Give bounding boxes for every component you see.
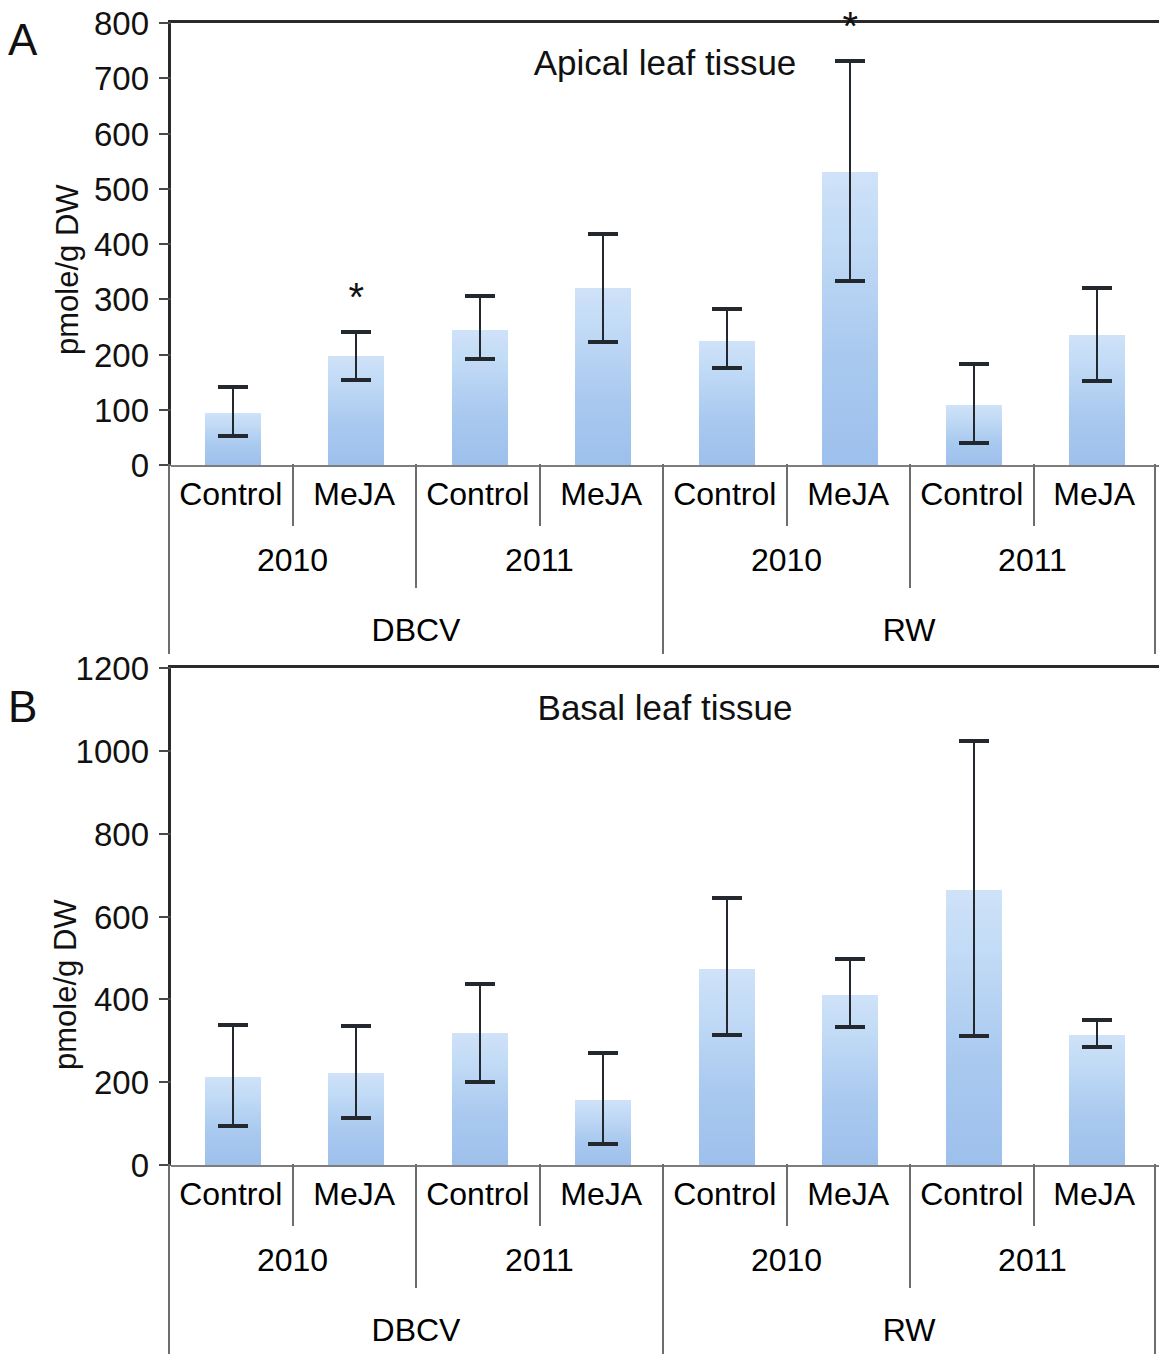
y-axis-tick-mark [159,77,171,79]
axis-treatment-label: MeJA [292,1164,416,1226]
error-bar-cap-top [835,59,865,63]
error-bar-cap-top [588,232,618,236]
error-bar-cap-bottom [588,1142,618,1146]
error-bar-cap-top [712,896,742,900]
axis-year-label: 2011 [909,526,1156,588]
y-axis-tick-label: 1200 [76,652,171,685]
error-bar-cap-bottom [341,378,371,382]
error-bar [232,386,234,437]
bar[interactable] [1069,1035,1125,1165]
error-bar-cap-top [1082,286,1112,290]
error-bar-cap-bottom [218,1124,248,1128]
bar-cell [542,23,666,465]
axis-treatment-label: MeJA [1033,464,1157,526]
bar-cell [418,23,542,465]
y-axis-tick-mark [159,667,171,669]
error-bar-cap-bottom [959,1034,989,1038]
axis-cultivar-label: DBCV [168,1288,662,1354]
error-bar [1096,1019,1098,1048]
bar-cell: * [789,23,913,465]
panel-a: A pmole/g DW Apical leaf tissue 01002003… [0,0,1156,658]
error-bar-cap-top [341,1024,371,1028]
panel-a-letter: A [8,18,37,62]
error-bar-cap-bottom [712,366,742,370]
panel-b: B pmole/g DW Basal leaf tissue 020040060… [0,650,1156,1371]
y-axis-tick-mark [159,298,171,300]
error-bar-cap-bottom [588,340,618,344]
error-bar-cap-bottom [218,434,248,438]
bar-cell [1036,23,1160,465]
error-bar [355,1025,357,1119]
panel-a-bar-group: ** [171,23,1159,465]
axis-cultivar-label: RW [662,1288,1156,1354]
axis-treatment-label: Control [415,1164,539,1226]
error-bar-cap-top [465,294,495,298]
axis-year-label: 2010 [168,1226,415,1288]
axis-treatment-label: Control [168,1164,292,1226]
panel-a-category-axis: ControlMeJAControlMeJAControlMeJAControl… [168,464,1156,654]
error-bar [602,233,604,344]
axis-treatment-label: Control [909,1164,1033,1226]
y-axis-tick-mark [159,998,171,1000]
error-bar-cap-top [959,739,989,743]
error-bar-cap-bottom [341,1116,371,1120]
bar-cell: * [295,23,419,465]
y-axis-tick-label: 1000 [76,734,171,767]
bar-cell [171,23,295,465]
error-bar-cap-top [588,1051,618,1055]
error-bar-cap-bottom [1082,379,1112,383]
bar-cell [912,23,1036,465]
panel-b-treatment-row: ControlMeJAControlMeJAControlMeJAControl… [168,1164,1156,1226]
panel-b-y-axis-label: pmole/g DW [50,899,81,1070]
error-bar-cap-top [218,385,248,389]
axis-treatment-label: MeJA [786,1164,910,1226]
error-bar [602,1052,604,1145]
panel-a-treatment-row: ControlMeJAControlMeJAControlMeJAControl… [168,464,1156,526]
axis-cultivar-label: DBCV [168,588,662,654]
axis-year-label: 2010 [662,1226,909,1288]
error-bar [973,363,975,444]
error-bar-cap-top [1082,1018,1112,1022]
axis-year-label: 2011 [415,1226,662,1288]
panel-a-plot-area: Apical leaf tissue 010020030040050060070… [168,20,1159,465]
axis-treatment-label: Control [909,464,1033,526]
bar-cell [542,668,666,1165]
error-bar [726,308,728,370]
bar-cell [171,668,295,1165]
axis-treatment-label: MeJA [1033,1164,1157,1226]
error-bar [726,897,728,1036]
error-bar [479,295,481,360]
y-axis-tick-mark [159,188,171,190]
bar-cell [418,668,542,1165]
error-bar [849,958,851,1028]
error-bar-cap-top [341,330,371,334]
error-bar-cap-top [218,1023,248,1027]
panel-b-year-row: 2010201120102011 [168,1226,1156,1288]
error-bar-cap-top [712,307,742,311]
error-bar [355,331,357,381]
error-bar-cap-bottom [835,279,865,283]
error-bar [1096,287,1098,383]
panel-a-cultivar-row: DBCVRW [168,588,1156,654]
y-axis-tick-mark [159,833,171,835]
y-axis-tick-mark [159,243,171,245]
y-axis-tick-mark [159,409,171,411]
error-bar [232,1024,234,1127]
y-axis-tick-mark [159,133,171,135]
axis-treatment-label: MeJA [786,464,910,526]
panel-b-letter: B [8,685,37,729]
y-axis-tick-mark [159,1081,171,1083]
axis-cultivar-label: RW [662,588,1156,654]
error-bar-cap-bottom [465,357,495,361]
error-bar-cap-bottom [1082,1045,1112,1049]
error-bar [479,983,481,1083]
bar-cell [912,668,1036,1165]
axis-year-label: 2010 [662,526,909,588]
panel-b-plot-area: Basal leaf tissue 020040060080010001200 [168,665,1159,1165]
y-axis-tick-mark [159,750,171,752]
error-bar-cap-top [465,982,495,986]
error-bar [849,60,851,282]
axis-treatment-label: Control [662,464,786,526]
error-bar-cap-top [959,362,989,366]
